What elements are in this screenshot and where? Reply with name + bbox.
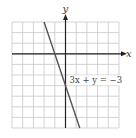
y-axis-arrow-icon xyxy=(63,14,68,20)
y-axis-label: y xyxy=(62,3,69,14)
coordinate-plane: x y 3x + y = −3 xyxy=(0,0,136,138)
equation-label: 3x + y = −3 xyxy=(70,75,123,85)
x-axis-label: x xyxy=(126,48,132,59)
